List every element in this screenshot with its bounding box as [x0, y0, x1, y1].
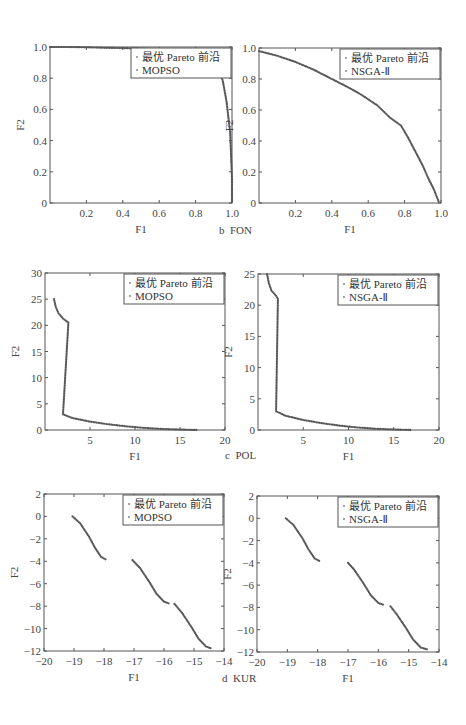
- legend-marker-icon: [343, 296, 345, 298]
- y-tick-label: 2: [249, 490, 255, 502]
- y-tick-label: −8: [29, 600, 41, 612]
- y-tick-label: −12: [24, 645, 41, 657]
- caption-fon: b FON: [219, 224, 252, 236]
- chart-fon-mopso: 0.20.40.60.81.000.20.40.60.81.0F1F2最优 Pa…: [14, 41, 239, 235]
- x-tick-label: 5: [87, 434, 93, 446]
- data-point: [104, 558, 106, 560]
- x-tick-label: 0.4: [325, 207, 339, 219]
- legend-entry: 最优 Pareto 前沿: [134, 497, 212, 510]
- x-tick-label: −14: [215, 655, 233, 667]
- chart-kur-nsga: −20−19−18−17−16−15−14−12−10−8−6−4−202F1F…: [221, 490, 448, 684]
- y-tick-label: 0: [37, 424, 43, 436]
- x-tick-label: 0.6: [361, 207, 375, 219]
- legend-marker-icon: [345, 57, 347, 59]
- y-tick-label: −2: [242, 535, 254, 547]
- y-tick-label: 0.8: [242, 73, 256, 85]
- caption-kur: d KUR: [222, 672, 256, 684]
- legend-entry: NSGA-Ⅱ: [349, 513, 388, 525]
- y-tick-label: −8: [242, 601, 254, 613]
- legend-entry: MOPSO: [142, 64, 180, 76]
- legend-entry: 最优 Pareto 前沿: [142, 50, 220, 63]
- legend-marker-icon: [343, 505, 345, 507]
- x-tick-label: 20: [434, 434, 446, 446]
- data-point: [382, 604, 384, 606]
- x-axis-label: F1: [129, 450, 141, 462]
- x-tick-label: −15: [185, 655, 203, 667]
- x-tick-label: −17: [339, 656, 357, 668]
- y-axis-label: F2: [8, 567, 20, 579]
- y-tick-label: 0.4: [242, 135, 256, 147]
- caption-pol: c POL: [225, 449, 256, 461]
- y-tick-label: 10: [31, 372, 43, 384]
- x-tick-label: −18: [309, 656, 327, 668]
- y-tick-label: 15: [31, 346, 43, 358]
- legend-entry: MOPSO: [135, 290, 173, 302]
- x-tick-label: −15: [400, 656, 418, 668]
- legend-marker-icon: [136, 56, 138, 58]
- y-tick-label: 0.2: [242, 166, 256, 178]
- x-tick-label: 0.2: [80, 207, 94, 219]
- legend-marker-icon: [345, 70, 347, 72]
- y-tick-label: 0: [42, 197, 48, 209]
- data-point: [426, 648, 428, 650]
- data-point: [409, 429, 411, 431]
- y-tick-label: −2: [29, 533, 41, 545]
- x-tick-label: 1.0: [434, 207, 448, 219]
- legend-entry: 最优 Pareto 前沿: [349, 277, 427, 290]
- legend-marker-icon: [129, 282, 131, 284]
- x-tick-label: −16: [155, 655, 173, 667]
- x-axis-label: F1: [128, 671, 140, 683]
- y-tick-label: 15: [244, 330, 256, 342]
- y-tick-label: −4: [29, 555, 41, 567]
- chart-fon-nsga: 0.20.40.60.81.000.20.40.60.81.0F1F2最优 Pa…: [223, 42, 448, 235]
- legend-entry: NSGA-Ⅱ: [349, 291, 388, 303]
- y-axis-label: F2: [14, 119, 26, 131]
- y-axis-label: F2: [223, 120, 235, 132]
- y-tick-label: −10: [237, 624, 255, 636]
- y-tick-label: 0: [251, 197, 257, 209]
- x-tick-label: −19: [65, 655, 83, 667]
- x-tick-label: −19: [279, 656, 297, 668]
- x-tick-label: 20: [220, 434, 232, 446]
- x-tick-label: 10: [130, 434, 142, 446]
- chart-pol-mopso: 5101520051015202530F1F2最优 Pareto 前沿MOPSO: [9, 267, 231, 462]
- x-axis-label: F1: [342, 672, 354, 684]
- y-tick-label: 25: [244, 268, 256, 280]
- x-tick-label: −17: [125, 655, 143, 667]
- x-tick-label: 5: [301, 434, 307, 446]
- y-tick-label: 0.6: [33, 103, 47, 115]
- legend-entry: NSGA-Ⅱ: [351, 65, 390, 77]
- legend-marker-icon: [343, 283, 345, 285]
- y-tick-label: 0.2: [33, 166, 47, 178]
- x-tick-label: 0.4: [116, 207, 130, 219]
- x-tick-label: 0.8: [398, 207, 412, 219]
- data-point: [231, 200, 233, 202]
- y-tick-label: 20: [31, 319, 43, 331]
- y-tick-label: 20: [244, 299, 256, 311]
- legend-entry: MOPSO: [134, 511, 172, 523]
- y-tick-label: 0: [249, 512, 255, 524]
- y-tick-label: 0.4: [33, 135, 47, 147]
- data-point: [209, 647, 211, 649]
- x-axis-label: F1: [344, 223, 356, 235]
- chart-kur-mopso: −20−19−18−17−16−15−14−12−10−8−6−4−202F1F…: [8, 488, 233, 683]
- y-tick-label: 1.0: [33, 41, 47, 53]
- legend-entry: 最优 Pareto 前沿: [135, 276, 213, 289]
- y-tick-label: 0.6: [242, 104, 256, 116]
- y-tick-label: 1.0: [242, 42, 256, 54]
- y-tick-label: 25: [31, 293, 43, 305]
- y-axis-label: F2: [9, 346, 21, 358]
- y-tick-label: 2: [36, 488, 42, 500]
- x-tick-label: 10: [343, 434, 355, 446]
- y-tick-label: 0.8: [33, 72, 47, 84]
- x-tick-label: −18: [95, 655, 113, 667]
- legend-marker-icon: [343, 518, 345, 520]
- y-tick-label: 5: [250, 393, 256, 405]
- legend-entry: 最优 Pareto 前沿: [349, 499, 427, 512]
- x-tick-label: 0.8: [189, 207, 203, 219]
- x-tick-label: −16: [370, 656, 388, 668]
- figure-canvas: 0.20.40.60.81.000.20.40.60.81.0F1F2最优 Pa…: [0, 0, 466, 725]
- y-tick-label: −10: [24, 623, 42, 635]
- x-tick-label: 0.6: [152, 207, 166, 219]
- y-tick-label: −6: [242, 579, 254, 591]
